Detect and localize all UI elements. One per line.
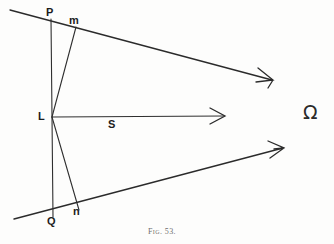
- point-label-m: m: [69, 15, 79, 26]
- point-label-q: Q: [47, 216, 56, 227]
- figure-canvas: [0, 0, 334, 244]
- lower-ray-line: [14, 148, 283, 219]
- upper-ray-line: [10, 10, 272, 80]
- segment-lm-line: [52, 27, 76, 117]
- point-label-n: n: [73, 206, 80, 217]
- point-label-s: S: [108, 119, 115, 130]
- point-label-p: P: [46, 7, 53, 18]
- segment-ln-line: [52, 117, 79, 210]
- point-label-omega: Ω: [303, 103, 318, 122]
- middle-ray-line: [52, 116, 224, 117]
- figure-caption: Fig. 53.: [148, 227, 176, 236]
- figure-page: P m L S Q n Ω Fig. 53.: [0, 0, 334, 244]
- point-label-l: L: [38, 111, 45, 122]
